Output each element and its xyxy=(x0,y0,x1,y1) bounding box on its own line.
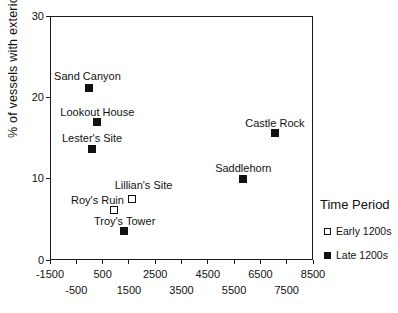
x-tick-label: 8500 xyxy=(301,268,325,280)
y-tick-label: 0 xyxy=(0,254,44,266)
y-axis-tick xyxy=(46,97,50,98)
x-axis-tick xyxy=(260,260,261,264)
x-axis-tick xyxy=(102,260,103,264)
x-axis-tick xyxy=(50,260,51,264)
scatter-plot-figure: % of vessels with exterior banded design… xyxy=(0,0,398,313)
x-tick-label: 500 xyxy=(93,268,111,280)
data-point-marker xyxy=(110,206,118,214)
y-axis-tick xyxy=(46,16,50,17)
data-point-marker xyxy=(239,175,247,183)
legend-entry-label: Early 1200s xyxy=(336,225,391,237)
data-point-label: Lester's Site xyxy=(62,132,122,144)
data-point-label: Roy's Ruin xyxy=(71,194,124,206)
x-axis-tick xyxy=(207,260,208,264)
x-tick-label: -500 xyxy=(65,284,87,296)
open-square-marker-icon xyxy=(324,228,331,235)
legend-entry-late-1200s: Late 1200s xyxy=(324,249,388,261)
x-tick-label: 1500 xyxy=(117,284,141,296)
x-tick-label: 7500 xyxy=(274,284,298,296)
filled-square-marker-icon xyxy=(324,252,331,259)
x-axis-tick xyxy=(234,260,235,264)
data-point-marker xyxy=(128,195,136,203)
legend-entry-label: Late 1200s xyxy=(336,249,388,261)
data-point-marker xyxy=(271,129,279,137)
y-axis-tick xyxy=(46,178,50,179)
x-tick-label: 2500 xyxy=(143,268,167,280)
x-tick-label: 4500 xyxy=(196,268,220,280)
y-tick-label: 30 xyxy=(0,10,44,22)
data-point-label: Lookout House xyxy=(60,106,134,118)
y-tick-label: 10 xyxy=(0,172,44,184)
data-point-marker xyxy=(120,227,128,235)
x-axis-tick xyxy=(181,260,182,264)
x-axis-tick xyxy=(286,260,287,264)
x-axis-tick xyxy=(76,260,77,264)
data-point-marker xyxy=(88,145,96,153)
x-axis-tick xyxy=(155,260,156,264)
x-tick-label: -1500 xyxy=(36,268,64,280)
y-tick-label: 20 xyxy=(0,91,44,103)
data-point-label: Lillian's Site xyxy=(115,179,173,191)
data-point-label: Saddlehorn xyxy=(215,162,271,174)
x-axis-tick xyxy=(128,260,129,264)
data-point-marker xyxy=(93,118,101,126)
data-point-marker xyxy=(85,84,93,92)
data-point-label: Castle Rock xyxy=(245,117,304,129)
x-axis-tick xyxy=(313,260,314,264)
x-tick-label: 6500 xyxy=(248,268,272,280)
data-point-label: Sand Canyon xyxy=(54,70,121,82)
y-axis-tick xyxy=(46,260,50,261)
x-tick-label: 3500 xyxy=(169,284,193,296)
data-point-label: Troy's Tower xyxy=(94,215,155,227)
x-tick-label: 5500 xyxy=(222,284,246,296)
legend-title: Time Period xyxy=(320,197,390,212)
legend-entry-early-1200s: Early 1200s xyxy=(324,225,391,237)
